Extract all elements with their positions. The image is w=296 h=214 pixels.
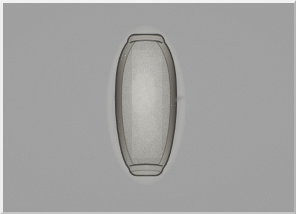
micrograph-figure: Brightfield photomicrograph of a single … — [0, 0, 296, 214]
parasite-egg-specimen — [112, 32, 180, 178]
